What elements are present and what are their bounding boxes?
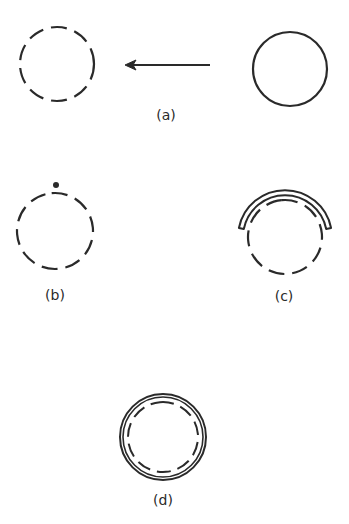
dashed-circle — [245, 197, 325, 277]
panel-label-b: (b) — [45, 287, 65, 303]
panel-c: (c) — [239, 190, 331, 304]
dot — [53, 182, 59, 188]
dashed-circle — [20, 27, 94, 101]
panel-label-d: (d) — [153, 492, 173, 508]
outer-solid-circle — [120, 394, 206, 480]
dashed-circle — [14, 190, 96, 272]
dashed-circle — [125, 399, 201, 475]
panel-label-c: (c) — [275, 288, 294, 304]
middle-solid-circle — [123, 397, 203, 477]
panel-d: (d) — [120, 394, 206, 508]
panel-b: (b) — [14, 182, 96, 303]
panel-label-a: (a) — [156, 107, 176, 123]
diagram-canvas: (a) (b) (c) (d) — [0, 0, 349, 524]
panel-a: (a) — [20, 27, 327, 123]
double-arc-band — [239, 190, 331, 229]
solid-circle — [253, 32, 327, 106]
